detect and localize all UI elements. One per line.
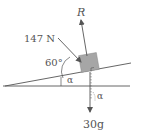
reaction-arrow: [81, 20, 87, 56]
reaction-label: R: [76, 6, 85, 19]
push-force-label: 147 N: [24, 33, 55, 44]
sixty-degree-label: 60°: [45, 57, 63, 68]
weight-label: 30g: [83, 118, 104, 131]
incline-alpha-label: α: [67, 75, 73, 85]
force-diagram: R 147 N 60° α α 30g: [0, 0, 145, 139]
weight-alpha-arc: [93, 92, 95, 101]
block: [79, 53, 100, 73]
weight-alpha-label: α: [97, 91, 103, 101]
